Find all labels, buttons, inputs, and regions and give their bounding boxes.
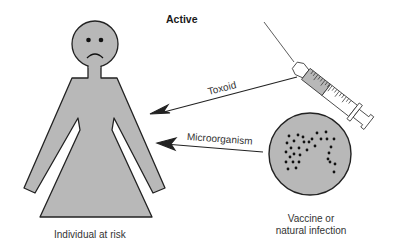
diagram-canvas [0,0,407,247]
source-label-line1: Vaccine or [266,213,356,225]
sad-person-icon [24,21,165,217]
eye-left [86,38,91,43]
individual-label: Individual at risk [54,229,126,241]
eye-right [99,38,104,43]
source-label-line2: natural infection [266,225,356,237]
diagram-title: Active [166,13,198,25]
culture-dish-icon [269,113,351,195]
